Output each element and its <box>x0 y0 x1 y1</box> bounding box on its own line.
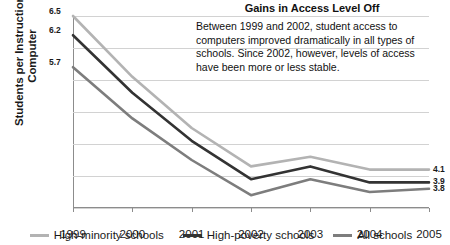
legend-item[interactable]: All schools <box>333 229 412 241</box>
legend-color-swatch <box>30 234 49 237</box>
legend-color-swatch <box>183 234 202 237</box>
x-axis-tick <box>73 208 74 212</box>
legend-color-swatch <box>333 234 352 237</box>
legend-label: All schools <box>357 229 412 241</box>
legend-item[interactable]: High-minority schools <box>30 229 164 241</box>
x-axis-tick <box>251 208 252 212</box>
x-axis-tick <box>370 208 371 212</box>
series-layer <box>73 16 429 208</box>
x-axis-tick <box>192 208 193 212</box>
series-end-value-label: 3.8 <box>433 183 445 193</box>
chart-legend: High-minority schoolsHigh-poverty school… <box>0 226 442 244</box>
y-axis-title-line: Students per Instructional <box>13 0 26 151</box>
series-start-value-label: 5.7 <box>49 57 61 67</box>
series-start-value-label: 6.5 <box>49 6 61 16</box>
chart-title: Gains in Access Level Off <box>188 2 436 14</box>
legend-label: High-poverty schools <box>207 229 314 241</box>
plot-area: 3.54.04.55.05.56.06.51999200020012002200… <box>73 16 429 208</box>
x-axis-tick <box>429 208 430 212</box>
x-axis-tick <box>132 208 133 212</box>
series-line <box>73 16 429 170</box>
x-axis-tick <box>310 208 311 212</box>
legend-item[interactable]: High-poverty schools <box>183 229 314 241</box>
legend-label: High-minority schools <box>54 229 164 241</box>
y-axis-title-line: Computer <box>26 0 39 151</box>
series-start-value-label: 6.2 <box>49 25 61 35</box>
series-line <box>73 35 429 182</box>
series-end-value-label: 4.1 <box>433 164 445 174</box>
y-axis-title: Students per InstructionalComputer <box>9 0 49 151</box>
